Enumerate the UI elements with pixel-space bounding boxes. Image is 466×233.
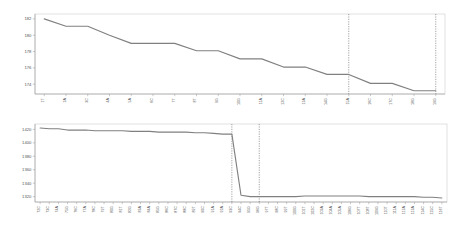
x-tick-label: 107T [357, 205, 361, 214]
x-tick-label: 83A [138, 206, 142, 213]
x-tick-label: 11A [259, 98, 263, 105]
x-tick-label: 9G [215, 98, 219, 103]
data-series-line [44, 19, 436, 91]
x-tick-label: 99T [284, 205, 288, 212]
x-tick-label: 16C [368, 98, 372, 105]
x-tick-label: 3C [85, 98, 89, 103]
x-tick-label: 78C [92, 206, 96, 213]
x-tick-label: 12C [281, 98, 285, 105]
x-tick-label: 105A [338, 206, 342, 215]
x-tick-label: 94C [238, 206, 242, 213]
x-tick-label: 96G [256, 206, 260, 213]
x-tick-label: 110T [384, 205, 388, 214]
y-tick-label: 1360 [22, 167, 32, 172]
x-tick-label: 85G [156, 206, 160, 213]
x-tick-label: 114C [421, 206, 425, 215]
x-tick-label: 18G [411, 98, 415, 105]
x-tick-label: 97T [265, 205, 269, 212]
x-tick-label: 2A [63, 98, 67, 103]
x-tick-label: 73C [46, 206, 50, 213]
x-tick-label: 92A [220, 206, 224, 213]
line-chart-bottom: 13201340136013801400142072C73C74A75G76C7… [0, 116, 466, 233]
x-tick-label: 74A [55, 206, 59, 213]
x-tick-label: 113A [411, 206, 415, 215]
x-tick-label: 90C [201, 206, 205, 213]
x-tick-label: 75G [65, 206, 69, 213]
x-tick-label: 82G [128, 206, 132, 213]
x-tick-label: 1T [41, 97, 45, 102]
x-tick-label: 19G [433, 98, 437, 105]
x-tick-label: 77A [83, 206, 87, 213]
x-tick-label: 89T [192, 205, 196, 212]
y-tick-label: 174 [24, 82, 32, 87]
y-tick-label: 178 [24, 49, 32, 54]
x-tick-label: 80G [110, 206, 114, 213]
x-tick-label: 102C [311, 206, 315, 215]
x-tick-label: 112A [402, 206, 406, 215]
x-tick-label: 76C [74, 206, 78, 213]
plot-area-top: 1741761781801821T2A3C4A5A6C7T8T9G10G11A1… [0, 0, 466, 116]
x-tick-label: 81T [119, 205, 123, 212]
x-tick-label: 98C [275, 206, 279, 213]
x-tick-label: 10G [237, 98, 241, 105]
x-tick-label: 108T [366, 205, 370, 214]
x-tick-label: 79T [101, 205, 105, 212]
y-tick-label: 1380 [22, 154, 32, 159]
x-tick-label: 111A [393, 206, 397, 214]
chart-panel-bottom: 13201340136013801400142072C73C74A75G76C7… [0, 116, 466, 233]
x-tick-label: 5A [128, 98, 132, 103]
plot-frame [35, 14, 445, 94]
x-tick-label: 116T [439, 205, 443, 214]
x-tick-label: 17C [389, 98, 393, 105]
plot-frame [35, 124, 447, 202]
x-tick-label: 100G [293, 206, 297, 215]
y-tick-label: 1320 [22, 194, 32, 199]
x-tick-label: 13A [302, 98, 306, 105]
x-tick-label: 93C [229, 206, 233, 213]
figure-root: 1741761781801821T2A3C4A5A6C7T8T9G10G11A1… [0, 0, 466, 233]
x-tick-label: 8T [193, 97, 197, 102]
y-tick-label: 1420 [22, 127, 32, 132]
x-tick-label: 6C [150, 98, 154, 103]
x-tick-label: 88C [183, 206, 187, 213]
x-tick-label: 103A [320, 206, 324, 215]
x-tick-label: 86C [165, 206, 169, 213]
y-tick-label: 176 [24, 65, 32, 70]
x-tick-label: 95G [247, 206, 251, 213]
chart-panel-top: 1741761781801821T2A3C4A5A6C7T8T9G10G11A1… [0, 0, 466, 116]
y-tick-label: 1400 [22, 140, 32, 145]
x-tick-label: 115C [430, 206, 434, 215]
y-tick-label: 180 [24, 33, 32, 38]
x-tick-label: 101T [302, 205, 306, 214]
x-tick-label: 104A [329, 206, 333, 215]
plot-area-bottom: 13201340136013801400142072C73C74A75G76C7… [0, 116, 466, 233]
y-tick-label: 1340 [22, 181, 32, 186]
data-series-line [40, 128, 442, 198]
x-tick-label: 15A [346, 98, 350, 105]
x-tick-label: 4A [106, 98, 110, 103]
x-tick-label: 91A [211, 206, 215, 213]
x-tick-label: 72C [37, 206, 41, 213]
line-chart-top: 1741761781801821T2A3C4A5A6C7T8T9G10G11A1… [0, 0, 466, 116]
y-tick-label: 182 [24, 16, 32, 21]
x-tick-label: 7T [172, 97, 176, 102]
x-tick-label: 109G [375, 206, 379, 215]
x-tick-label: 106G [348, 206, 352, 215]
x-tick-label: 14G [324, 98, 328, 105]
x-tick-label: 87C [174, 206, 178, 213]
x-tick-label: 84A [147, 206, 151, 213]
